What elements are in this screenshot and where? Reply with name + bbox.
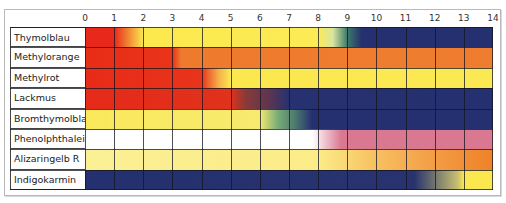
grid-horizontal-line <box>10 149 493 150</box>
grid-horizontal-line <box>10 170 493 171</box>
color-range-bar <box>85 47 493 67</box>
grid-horizontal-line <box>10 129 493 130</box>
indicator-label: Methylorange <box>10 47 85 67</box>
color-range-bar <box>85 88 493 108</box>
grid-horizontal-line <box>10 47 493 48</box>
x-tick-label: 13 <box>458 12 469 24</box>
color-range-bar <box>85 149 493 169</box>
indicator-label: Phenolphthalein <box>10 129 85 149</box>
color-range-bar <box>85 170 493 190</box>
x-tick-label: 9 <box>344 12 350 24</box>
x-tick-label: 14 <box>487 12 498 24</box>
indicator-label: Lackmus <box>10 88 85 108</box>
x-tick-label: 7 <box>286 12 292 24</box>
indicator-row: Phenolphthalein <box>10 129 493 149</box>
indicator-row: Indigokarmin <box>10 170 493 190</box>
x-tick-label: 0 <box>82 12 88 24</box>
indicator-label: Alizaringelb R <box>10 149 85 169</box>
indicator-row: Bromthymolblau <box>10 109 493 129</box>
color-range-bar <box>85 129 493 149</box>
indicator-row: Lackmus <box>10 88 493 108</box>
x-tick-label: 4 <box>199 12 205 24</box>
x-tick-label: 3 <box>170 12 176 24</box>
x-tick-label: 8 <box>315 12 321 24</box>
color-range-bar <box>85 27 493 47</box>
x-tick-label: 2 <box>140 12 146 24</box>
x-tick-label: 1 <box>111 12 117 24</box>
indicator-row: Methylrot <box>10 68 493 88</box>
x-tick-label: 5 <box>228 12 234 24</box>
indicator-label: Indigokarmin <box>10 170 85 190</box>
grid-horizontal-line <box>10 109 493 110</box>
indicator-row: Alizaringelb R <box>10 149 493 169</box>
x-tick-label: 12 <box>429 12 440 24</box>
x-tick-label: 10 <box>371 12 382 24</box>
indicator-label: Bromthymolblau <box>10 109 85 129</box>
x-tick-label: 11 <box>400 12 411 24</box>
grid-horizontal-line <box>10 189 493 190</box>
indicator-label: Methylrot <box>10 68 85 88</box>
grid-horizontal-line <box>10 88 493 89</box>
grid-horizontal-line <box>10 68 493 69</box>
color-range-bar <box>85 109 493 129</box>
x-tick-label: 6 <box>257 12 263 24</box>
x-axis-ticks: 01234567891011121314 <box>0 12 506 26</box>
indicator-row: Thymolblau <box>10 27 493 47</box>
grid-horizontal-line <box>10 27 493 28</box>
indicator-label: Thymolblau <box>10 27 85 47</box>
color-range-bar <box>85 68 493 88</box>
indicator-row: Methylorange <box>10 47 493 67</box>
